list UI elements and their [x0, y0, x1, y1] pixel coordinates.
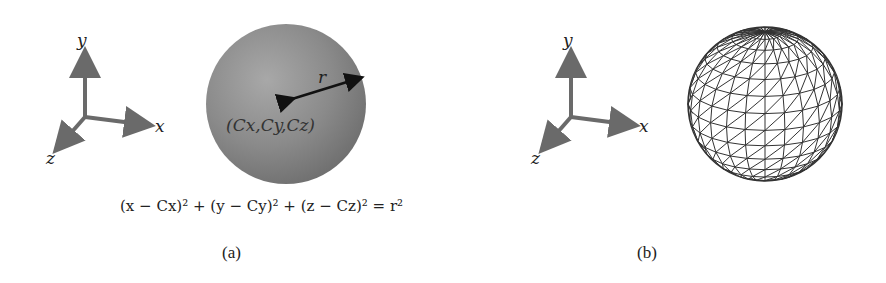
sphere-equation: (x − Cx)² + (y − Cy)² + (z − Cz)² = r²: [120, 197, 403, 215]
z-axis-arrow-icon: [63, 117, 85, 142]
shaded-sphere: r (Cx,Cy,Cz): [206, 24, 366, 184]
axes-gizmo-b: y x z: [530, 30, 649, 168]
center-point-icon: [282, 97, 290, 105]
z-axis-label: z: [45, 148, 56, 168]
panel-a: y x z r (Cx,Cy,Cz) (x − Cx)² + (y − Cy)²…: [0, 0, 443, 283]
radius-label: r: [318, 67, 327, 87]
y-axis-label: y: [562, 30, 573, 50]
x-axis-arrow-icon: [571, 117, 625, 124]
y-axis-label: y: [76, 30, 87, 50]
panel-a-graphics: y x z r (Cx,Cy,Cz): [0, 0, 443, 283]
z-axis-arrow-icon: [549, 117, 571, 142]
x-axis-label: x: [155, 116, 165, 136]
caption-b: (b): [637, 243, 657, 263]
axes-gizmo-a: y x z: [45, 30, 165, 168]
panel-b: y x z (b): [443, 0, 886, 283]
panel-b-graphics: y x z: [443, 0, 886, 283]
x-axis-arrow-icon: [85, 117, 140, 124]
caption-a: (a): [222, 243, 241, 263]
z-axis-label: z: [530, 148, 541, 168]
center-label: (Cx,Cy,Cz): [226, 115, 315, 135]
x-axis-label: x: [639, 116, 649, 136]
wireframe-sphere: [688, 27, 842, 181]
